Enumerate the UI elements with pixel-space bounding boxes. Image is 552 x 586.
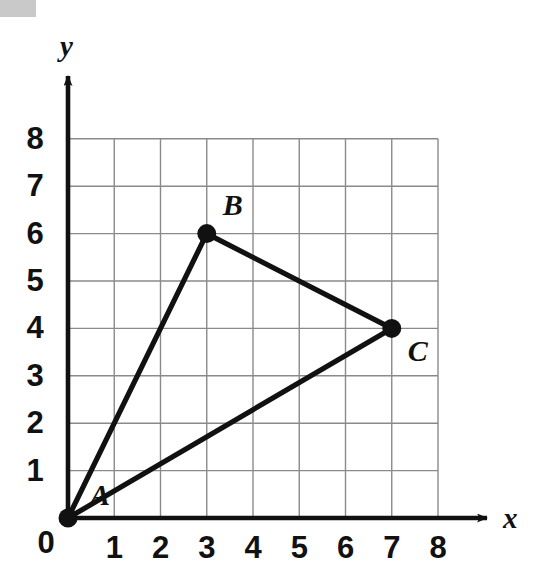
vertex-point-c [382, 319, 401, 338]
x-axis-label: x [503, 504, 518, 533]
x-tick-label-8: 8 [418, 532, 458, 563]
x-tick-label-4: 4 [233, 532, 273, 563]
y-axis-label: y [60, 32, 73, 61]
vertex-point-b [197, 224, 216, 243]
plot-canvas [0, 0, 552, 586]
axis-origin-label: 0 [26, 527, 66, 558]
vertex-point-a [59, 509, 78, 528]
vertex-label-a: A [90, 480, 110, 510]
y-tick-label-1: 1 [15, 455, 55, 486]
coordinate-plane-figure: 01234567812345678 x y ABC [0, 0, 552, 586]
x-tick-label-5: 5 [279, 532, 319, 563]
y-tick-label-8: 8 [15, 123, 55, 154]
x-tick-label-7: 7 [372, 532, 412, 563]
y-tick-label-6: 6 [15, 218, 55, 249]
y-tick-label-4: 4 [15, 312, 55, 343]
x-tick-label-6: 6 [326, 532, 366, 563]
y-tick-label-7: 7 [15, 170, 55, 201]
x-tick-label-1: 1 [94, 532, 134, 563]
vertex-label-b: B [223, 190, 243, 220]
vertex-label-c: C [408, 336, 428, 366]
axis-lines [66, 76, 487, 520]
x-tick-label-2: 2 [141, 532, 181, 563]
x-tick-label-3: 3 [187, 532, 227, 563]
y-tick-label-3: 3 [15, 360, 55, 391]
y-tick-label-5: 5 [15, 265, 55, 296]
y-tick-label-2: 2 [15, 407, 55, 438]
